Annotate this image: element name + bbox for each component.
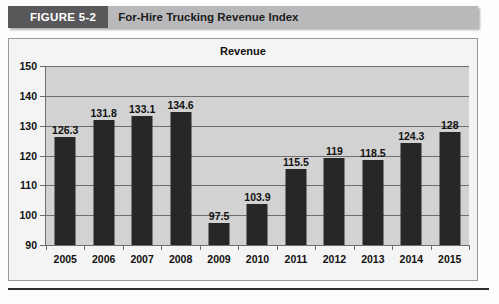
x-tick-mark <box>238 245 239 250</box>
y-tick-label: 100 <box>19 209 37 221</box>
bar-value-label: 97.5 <box>209 210 229 222</box>
x-tick-mark <box>315 245 316 250</box>
figure-container: FIGURE 5-2 For-Hire Trucking Revenue Ind… <box>0 0 499 304</box>
bar-group[interactable]: 97.52009 <box>200 66 238 245</box>
x-tick-label: 2015 <box>438 253 461 265</box>
bar-group[interactable]: 126.32005 <box>46 66 84 245</box>
bar[interactable] <box>439 132 460 245</box>
x-tick-mark <box>392 245 393 250</box>
bar-group[interactable]: 131.82006 <box>84 66 122 245</box>
x-tick-label: 2008 <box>169 253 192 265</box>
bar-value-label: 119 <box>326 145 343 157</box>
x-tick-label: 2014 <box>400 253 423 265</box>
bar-group[interactable]: 1282015 <box>431 66 469 245</box>
y-tick-label: 120 <box>19 150 37 162</box>
x-tick-mark <box>161 245 162 250</box>
bar-value-label: 126.3 <box>52 124 78 136</box>
x-tick-mark <box>469 245 470 250</box>
bar-value-label: 124.3 <box>398 130 424 142</box>
x-tick-label: 2007 <box>130 253 153 265</box>
bar-value-label: 133.1 <box>129 103 155 115</box>
x-tick-mark <box>277 245 278 250</box>
bar-group[interactable]: 124.32014 <box>392 66 430 245</box>
x-tick-mark <box>46 245 47 250</box>
y-tick-label: 150 <box>19 60 37 72</box>
x-tick-label: 2011 <box>285 253 308 265</box>
bar-group[interactable]: 134.62008 <box>161 66 199 245</box>
x-tick-mark <box>354 245 355 250</box>
bar-value-label: 103.9 <box>244 191 270 203</box>
y-tick-label: 90 <box>25 239 37 251</box>
plot-area: 15014013012011010090 126.32005131.820061… <box>45 66 469 246</box>
bar[interactable] <box>324 158 345 245</box>
bar-value-label: 115.5 <box>283 156 309 168</box>
bar[interactable] <box>285 169 306 245</box>
bar-group[interactable]: 1192012 <box>315 66 353 245</box>
x-tick-label: 2013 <box>361 253 384 265</box>
bar-group[interactable]: 103.92010 <box>238 66 276 245</box>
bar-value-label: 118.5 <box>360 147 386 159</box>
x-tick-label: 2005 <box>54 253 77 265</box>
x-tick-mark <box>200 245 201 250</box>
figure-header-band: FIGURE 5-2 For-Hire Trucking Revenue Ind… <box>8 6 478 28</box>
figure-number-label: FIGURE 5-2 <box>8 6 108 28</box>
gridline <box>46 245 469 246</box>
bar-value-label: 131.8 <box>91 107 117 119</box>
y-tick-label: 140 <box>19 90 37 102</box>
x-tick-label: 2006 <box>92 253 115 265</box>
x-tick-label: 2010 <box>246 253 269 265</box>
x-tick-mark <box>84 245 85 250</box>
bar[interactable] <box>247 204 268 245</box>
figure-title: For-Hire Trucking Revenue Index <box>108 6 478 28</box>
bar[interactable] <box>362 160 383 245</box>
bar[interactable] <box>209 223 230 245</box>
bar-value-label: 128 <box>441 119 459 131</box>
bar-value-label: 134.6 <box>167 99 193 111</box>
x-tick-mark <box>431 245 432 250</box>
x-tick-label: 2009 <box>207 253 230 265</box>
x-tick-label: 2012 <box>323 253 346 265</box>
bar-group[interactable]: 118.52013 <box>354 66 392 245</box>
bars-layer: 126.32005131.82006133.12007134.6200897.5… <box>46 66 469 245</box>
bar[interactable] <box>132 116 153 245</box>
bar[interactable] <box>401 143 422 245</box>
bar[interactable] <box>170 112 191 245</box>
chart-frame: Revenue 15014013012011010090 126.3200513… <box>8 38 478 281</box>
chart-title: Revenue <box>9 45 477 57</box>
bar-group[interactable]: 115.52011 <box>277 66 315 245</box>
y-tick-label: 110 <box>20 179 37 191</box>
bottom-divider <box>8 288 489 290</box>
y-tick-label: 130 <box>19 120 37 132</box>
bar-group[interactable]: 133.12007 <box>123 66 161 245</box>
bar[interactable] <box>55 137 76 245</box>
x-tick-mark <box>123 245 124 250</box>
bar[interactable] <box>93 120 114 245</box>
